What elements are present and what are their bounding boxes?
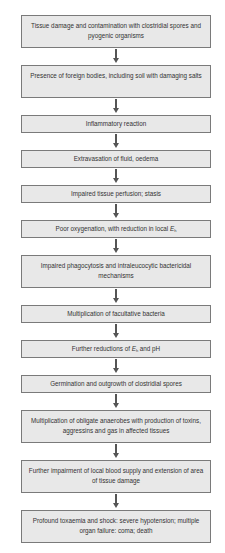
step-text: Poor oxygenation, with reduction in loca… — [56, 225, 170, 232]
step-text-after: and pH — [138, 345, 160, 352]
arrow-down-icon — [21, 288, 211, 305]
step-impaired-perfusion: Impaired tissue perfusion; stasis — [21, 185, 211, 203]
eh-subscript: h — [174, 228, 176, 233]
arrow-down-icon — [21, 168, 211, 185]
arrow-down-icon — [21, 238, 211, 255]
arrow-down-icon — [21, 133, 211, 150]
step-profound-toxaemia: Profound toxaemia and shock: severe hypo… — [21, 510, 211, 543]
step-foreign-bodies: Presence of foreign bodies, including so… — [21, 65, 211, 98]
arrow-down-icon — [21, 393, 211, 410]
step-tissue-damage: Tissue damage and contamination with clo… — [21, 15, 211, 48]
step-facultative-bacteria: Multiplication of facultative bacteria — [21, 305, 211, 323]
step-poor-oxygenation: Poor oxygenation, with reduction in loca… — [21, 220, 211, 238]
arrow-down-icon — [21, 203, 211, 220]
step-inflammatory-reaction: Inflammatory reaction — [21, 115, 211, 133]
arrow-down-icon — [21, 358, 211, 375]
step-further-impairment: Further impairment of local blood supply… — [21, 460, 211, 493]
arrow-down-icon — [21, 98, 211, 115]
step-obligate-anaerobes: Multiplication of obligate anaerobes wit… — [21, 410, 211, 443]
arrow-down-icon — [21, 443, 211, 460]
step-impaired-phagocytosis: Impaired phagocytosis and intraleucocyti… — [21, 255, 211, 288]
arrow-down-icon — [21, 493, 211, 510]
step-text: Further reductions of — [72, 345, 132, 352]
step-germination: Germination and outgrowth of clostridial… — [21, 375, 211, 393]
step-further-reductions: Further reductions of Eh and pH — [21, 340, 211, 358]
arrow-down-icon — [21, 48, 211, 65]
step-extravasation: Extravasation of fluid, oedema — [21, 150, 211, 168]
arrow-down-icon — [21, 323, 211, 340]
flowchart: Tissue damage and contamination with clo… — [21, 15, 211, 543]
